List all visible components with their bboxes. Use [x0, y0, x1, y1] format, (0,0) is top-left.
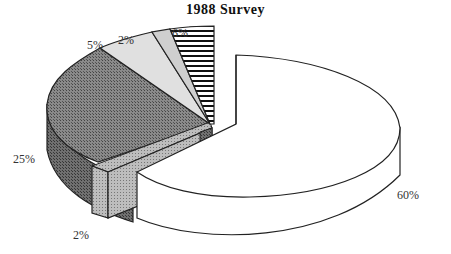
label-2b: 2%	[118, 33, 134, 48]
label-5: 5%	[87, 38, 103, 53]
label-25: 25%	[13, 152, 35, 167]
label-2a: 2%	[73, 228, 89, 243]
pie-chart	[0, 0, 451, 254]
label-6: 6%	[172, 26, 188, 41]
slice-2a-front	[92, 166, 108, 218]
label-60: 60%	[397, 188, 419, 203]
